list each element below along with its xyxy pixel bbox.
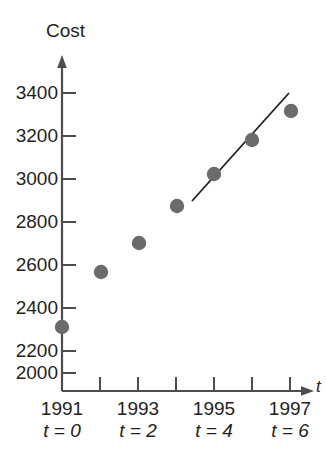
x-tick-label-1997: 1997	[250, 398, 326, 420]
trend-line	[192, 93, 289, 201]
x-tick-label-1991: 1991	[22, 398, 102, 420]
y-tick-label-3000: 3000	[2, 168, 58, 190]
y-tick-label-2200: 2200	[2, 340, 58, 362]
cost-vs-time-scatter-chart: Cost t 3400 3200 3000 2800 2600 2400 220…	[0, 0, 326, 457]
y-axis-title: Cost	[46, 20, 85, 42]
x-axis-ticks	[62, 377, 290, 391]
y-tick-label-2400: 2400	[2, 297, 58, 319]
x-tick-sublabel-t0: t = 0	[22, 420, 102, 442]
data-point	[55, 320, 69, 334]
x-tick-group-1991: 1991 t = 0	[22, 398, 102, 442]
data-points	[55, 104, 298, 334]
x-tick-label-1993: 1993	[98, 398, 178, 420]
y-tick-label-3200: 3200	[2, 125, 58, 147]
y-tick-label-2000: 2000	[2, 362, 58, 384]
x-tick-sublabel-t4: t = 4	[174, 420, 254, 442]
x-tick-sublabel-t2: t = 2	[98, 420, 178, 442]
data-point	[284, 104, 298, 118]
data-point	[207, 167, 221, 181]
y-tick-label-3400: 3400	[2, 82, 58, 104]
x-tick-group-1997: 1997 t = 6	[250, 398, 326, 442]
data-point	[94, 265, 108, 279]
x-tick-group-1995: 1995 t = 4	[174, 398, 254, 442]
x-tick-sublabel-t6: t = 6	[250, 420, 326, 442]
y-tick-label-2800: 2800	[2, 211, 58, 233]
x-tick-label-1995: 1995	[174, 398, 254, 420]
x-tick-group-1993: 1993 t = 2	[98, 398, 178, 442]
y-tick-label-2600: 2600	[2, 254, 58, 276]
data-point	[170, 199, 184, 213]
x-axis-title: t	[316, 377, 321, 397]
data-point	[132, 236, 146, 250]
data-point	[245, 133, 259, 147]
